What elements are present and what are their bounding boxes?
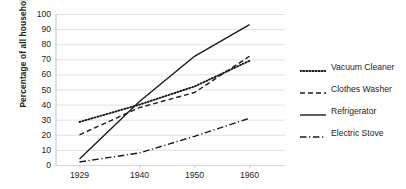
chart-legend: Vacuum CleanerClothes WasherRefrigerator… bbox=[300, 56, 406, 144]
x-axis-tick-label: 1960 bbox=[240, 170, 259, 180]
legend-item-clothes-washer[interactable]: Clothes Washer bbox=[300, 78, 406, 100]
x-axis-tick-label: 1940 bbox=[130, 170, 149, 180]
legend-line-swatch bbox=[300, 128, 326, 138]
legend-label: Refrigerator bbox=[331, 106, 376, 116]
legend-item-vacuum-cleaner[interactable]: Vacuum Cleaner bbox=[300, 56, 406, 78]
line-chart-figure: Percentage of all households 10090807060… bbox=[0, 0, 406, 189]
legend-line-swatch bbox=[300, 106, 326, 116]
legend-line-swatch bbox=[300, 62, 326, 72]
x-axis-tick-label: 1929 bbox=[70, 170, 89, 180]
series-line-electric-stove bbox=[80, 118, 250, 162]
series-line-vacuum-cleaner bbox=[80, 61, 250, 122]
x-axis-tick-labels: 1929194019501960 bbox=[0, 170, 406, 184]
legend-item-refrigerator[interactable]: Refrigerator bbox=[300, 100, 406, 122]
legend-item-electric-stove[interactable]: Electric Stove bbox=[300, 122, 406, 144]
series-line-clothes-washer bbox=[80, 56, 250, 135]
x-axis-tick-label: 1950 bbox=[185, 170, 204, 180]
gridlines bbox=[56, 15, 286, 166]
legend-label: Vacuum Cleaner bbox=[331, 62, 394, 72]
legend-label: Electric Stove bbox=[331, 128, 384, 138]
data-series bbox=[80, 25, 250, 162]
legend-line-swatch bbox=[300, 84, 326, 94]
legend-label: Clothes Washer bbox=[331, 84, 392, 94]
